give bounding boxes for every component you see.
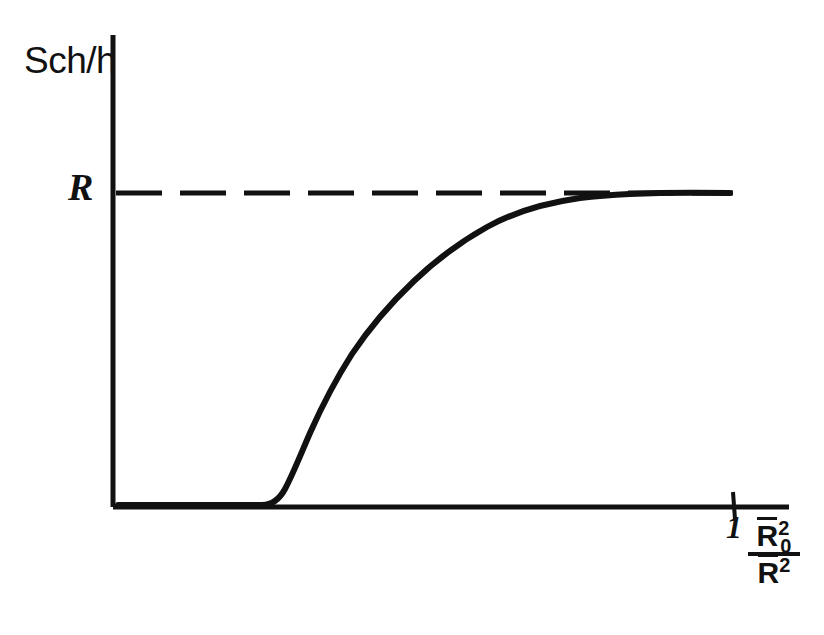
denominator-superscript: 2	[779, 554, 790, 576]
denominator-variable-text: R	[758, 556, 780, 589]
plot-canvas	[0, 0, 824, 635]
x-axis-label: R20 R2	[748, 521, 800, 588]
x-axis-label-denominator: R2	[756, 558, 793, 588]
data-curve	[118, 193, 730, 505]
y-axis-label: Sch/h	[24, 42, 116, 79]
x-axis-label-numerator: R20	[755, 521, 794, 551]
numerator-variable-text: R	[757, 519, 779, 552]
overbar-icon	[757, 517, 778, 520]
figure-root: Sch/h R 1 R20 R2	[0, 0, 824, 635]
numerator-variable: R	[757, 521, 779, 551]
asymptote-value-label: R	[68, 168, 93, 206]
denominator-variable: R	[758, 558, 780, 588]
overbar-icon	[758, 554, 779, 557]
x-axis-tick-label-1: 1	[726, 511, 742, 543]
